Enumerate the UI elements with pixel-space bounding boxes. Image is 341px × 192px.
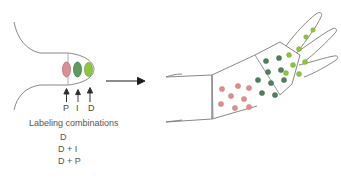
limb-dot [246,104,251,109]
pointer-arrow-d [87,88,92,103]
limb-dots-intermediate [255,55,286,97]
limb-dot [263,58,268,63]
limb-dot [246,85,251,90]
limb-dot [303,60,308,65]
limb-bud-outline [14,22,94,110]
limb-dot [272,92,277,97]
zone-marker-i [74,62,82,77]
limb-dot [278,67,283,72]
limb-dot [235,83,240,88]
limb-dot [284,71,289,76]
limb-dot [232,105,237,110]
limb-dot [255,77,260,82]
limb-dot [281,77,286,82]
limb-dot [297,47,302,52]
figure-canvas: P I D Labeling combinations D D + I D + … [0,0,341,192]
limb-dots-distal [284,28,316,77]
limb-dot [276,55,281,60]
axis-label-i: I [76,104,79,113]
limb-dot [311,28,316,33]
limb-dot [304,35,309,40]
pointer-arrow-i [76,90,81,103]
limb-dot [287,53,292,58]
zone-markers [63,62,93,77]
figure-svg [0,0,341,192]
limb-dot [291,63,296,68]
zone-marker-p [63,62,71,77]
legend-title: Labeling combinations [29,119,119,128]
limb-dot [218,101,223,106]
limb-dot [241,96,246,101]
axis-label-d: D [88,104,95,113]
limb-dot [268,80,273,85]
legend-combination-item: D + P [58,157,81,166]
limb-dot [297,72,302,77]
limb-dot [219,86,224,91]
zone-pointer-arrows [64,88,93,103]
limb-dots-proximal [218,83,251,110]
limb-dot [259,90,264,95]
limb-dot [265,69,270,74]
pointer-arrow-p [64,89,69,103]
legend-combination-item: D [60,133,67,142]
transition-arrow [106,77,145,84]
zone-marker-d [85,63,93,77]
legend-combination-item: D + I [58,145,77,154]
limb-dot [228,93,233,98]
axis-label-p: P [63,104,69,113]
